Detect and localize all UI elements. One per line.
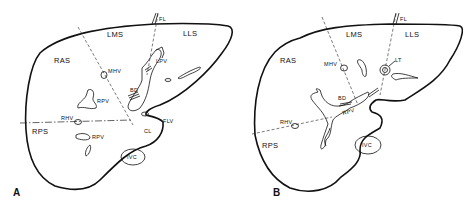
right-portal-vein-upper-a bbox=[78, 89, 97, 108]
right-hepatic-vein-b bbox=[292, 124, 299, 129]
label-fl-a: FL bbox=[159, 16, 166, 22]
panel-label-a: A bbox=[13, 187, 20, 198]
label-ivc-b: IVC bbox=[362, 142, 372, 148]
lms-ras-boundary-a bbox=[78, 27, 133, 125]
label-lms-a: LMS bbox=[107, 30, 123, 39]
label-rhv-b: RHV bbox=[280, 119, 293, 125]
label-lls-a: LLS bbox=[183, 29, 197, 38]
label-fl-b: FL bbox=[400, 16, 407, 22]
liver-diagram: RAS LMS LLS RPS FL MHV LPV BD RPV RHV RP… bbox=[0, 0, 473, 207]
label-rpv-upper-a: RPV bbox=[97, 98, 109, 104]
label-ivc-a: IVC bbox=[127, 154, 137, 160]
ras-rps-boundary-a bbox=[20, 120, 132, 123]
label-rpv-lower-a: RPV bbox=[92, 134, 104, 140]
lms-lls-boundary-b bbox=[380, 14, 396, 95]
label-lms-b: LMS bbox=[346, 30, 362, 39]
right-portal-vein-lower-a bbox=[76, 134, 90, 140]
falciform-ligament-a bbox=[152, 13, 158, 24]
panel-a: RAS LMS LLS RPS FL MHV LPV BD RPV RHV RP… bbox=[13, 13, 232, 198]
lpv-branch-a bbox=[156, 47, 164, 58]
label-rpv-b: RPV bbox=[342, 107, 355, 116]
lms-vessel-b bbox=[357, 60, 366, 77]
middle-hepatic-vein-a bbox=[101, 72, 107, 79]
bile-duct-a bbox=[128, 92, 140, 100]
label-rhv-a: RHV bbox=[61, 115, 74, 121]
lls-vessel-b bbox=[392, 73, 418, 80]
label-bd-b: BD bbox=[338, 95, 346, 101]
label-lt-b: LT bbox=[395, 57, 402, 63]
label-mhv-a: MHV bbox=[108, 68, 121, 74]
label-cl-a: CL bbox=[144, 128, 152, 134]
label-lpv-a: LPV bbox=[156, 58, 167, 64]
label-mhv-b: MHV bbox=[324, 61, 337, 67]
label-bd-a: BD bbox=[130, 87, 138, 93]
lls-vessel-a bbox=[178, 67, 201, 79]
panel-label-b: B bbox=[273, 187, 280, 198]
label-ras-b: RAS bbox=[280, 56, 296, 65]
flv-vessel-a bbox=[142, 112, 149, 116]
label-rps-a: RPS bbox=[32, 127, 48, 136]
right-hepatic-vein-a bbox=[75, 120, 82, 125]
right-portal-vein-lower-branch-a bbox=[85, 145, 90, 156]
label-flv-a: FLV bbox=[163, 118, 174, 124]
lls-vessel-small-a bbox=[165, 79, 171, 82]
liver-outline-b bbox=[255, 24, 463, 191]
lpv-marks-b bbox=[368, 88, 379, 97]
label-lls-b: LLS bbox=[405, 30, 419, 39]
label-ras-a: RAS bbox=[54, 56, 70, 65]
label-rps-b: RPS bbox=[262, 141, 278, 150]
panel-b: RAS LMS LLS RPS FL MHV LT BD RPV RHV IVC… bbox=[252, 13, 462, 198]
lpv-bile-duct-marks-a bbox=[145, 66, 152, 72]
